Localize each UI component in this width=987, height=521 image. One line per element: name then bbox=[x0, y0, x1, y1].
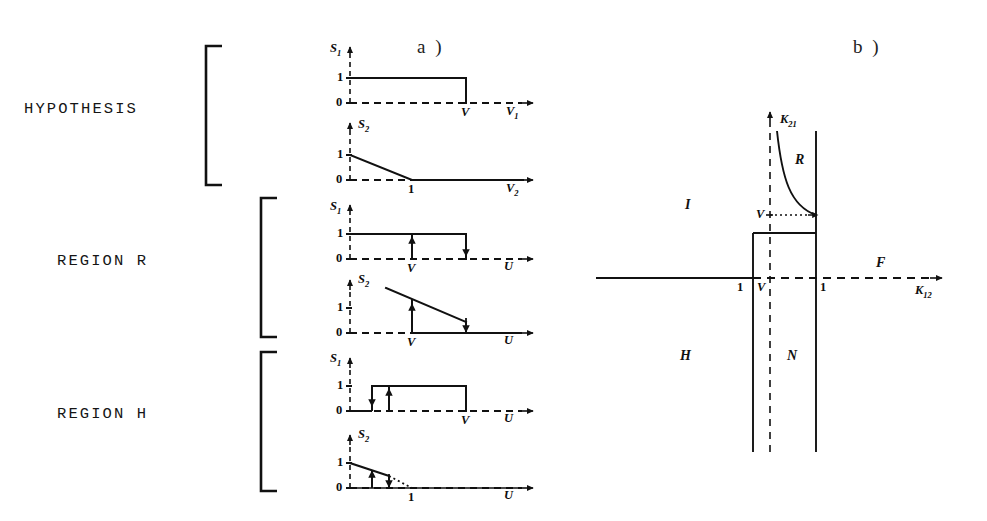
plot-panel-b bbox=[596, 112, 942, 452]
xtick-1-regh-s2: 1 bbox=[408, 490, 414, 505]
plot-regr-s1 bbox=[346, 205, 533, 259]
bracket-region-h bbox=[261, 352, 277, 491]
ytick-0-regr-s1: 0 bbox=[336, 251, 342, 266]
axis-label-s2-regr: S2 bbox=[358, 272, 369, 289]
axis-label-v1: V1 bbox=[506, 104, 519, 121]
axis-label-u-regr-s2: U bbox=[504, 333, 513, 348]
ytick-0-hyp-s2: 0 bbox=[336, 172, 342, 187]
panel-a-tag: a ) bbox=[417, 36, 444, 58]
region-label-n: N bbox=[787, 348, 797, 364]
axis-label-s2-hyp: S2 bbox=[358, 117, 369, 134]
ytick-V-panel-b: V bbox=[756, 207, 764, 222]
xtick-1-hyp-s2: 1 bbox=[408, 182, 414, 197]
plot-regr-s2 bbox=[346, 280, 533, 333]
axis-label-k21: K21 bbox=[780, 112, 797, 129]
ytick-1-regr-s2: 1 bbox=[337, 300, 343, 315]
xtick-V-hyp-s1: V bbox=[461, 105, 469, 120]
axis-label-k12: K12 bbox=[915, 283, 932, 300]
axis-label-v2: V2 bbox=[506, 181, 519, 198]
figure-root: HYPOTHESIS REGION R REGION H a ) b ) S1 … bbox=[0, 0, 987, 521]
ytick-1-hyp-s1: 1 bbox=[337, 70, 343, 85]
plot-hyp-s2 bbox=[346, 123, 533, 180]
xtick-V-regr-s1: V bbox=[407, 261, 415, 276]
axis-label-u-regr-s1: U bbox=[504, 259, 513, 274]
row-label-region-h: REGION H bbox=[57, 405, 148, 423]
axis-label-s1-regr: S1 bbox=[330, 199, 341, 216]
bracket-hypothesis bbox=[206, 46, 222, 185]
xtick-V-regh-s1: V bbox=[461, 413, 469, 428]
region-label-i: I bbox=[685, 197, 690, 213]
region-label-r: R bbox=[795, 152, 804, 168]
xtick-V-panel-b: V bbox=[757, 280, 765, 295]
bracket-region-r bbox=[261, 198, 277, 337]
row-label-region-r: REGION R bbox=[57, 252, 148, 270]
region-label-h: H bbox=[680, 348, 691, 364]
axis-label-u-regh-s2: U bbox=[504, 488, 513, 503]
ytick-0-regh-s1: 0 bbox=[336, 403, 342, 418]
axis-label-s1-hyp: S1 bbox=[330, 41, 341, 58]
ytick-1-regr-s1: 1 bbox=[337, 226, 343, 241]
ytick-1-regh-s1: 1 bbox=[337, 378, 343, 393]
ytick-0-hyp-s1: 0 bbox=[336, 95, 342, 110]
axis-label-s2-regh: S2 bbox=[358, 427, 369, 444]
panel-b-tag: b ) bbox=[853, 36, 881, 58]
xtick-left-1-panel-b: 1 bbox=[737, 280, 743, 295]
xtick-right-1-panel-b: 1 bbox=[820, 280, 826, 295]
xtick-V-regr-s2: V bbox=[407, 335, 415, 350]
axis-label-u-regh-s1: U bbox=[504, 411, 513, 426]
region-label-f: F bbox=[876, 255, 885, 271]
ytick-0-regr-s2: 0 bbox=[336, 325, 342, 340]
axis-label-s1-regh: S1 bbox=[330, 351, 341, 368]
plot-regh-s2 bbox=[346, 435, 533, 488]
ytick-1-regh-s2: 1 bbox=[337, 455, 343, 470]
plot-regh-s1 bbox=[346, 358, 533, 411]
row-label-hypothesis: HYPOTHESIS bbox=[24, 100, 138, 118]
ytick-0-regh-s2: 0 bbox=[336, 480, 342, 495]
ytick-1-hyp-s2: 1 bbox=[337, 147, 343, 162]
